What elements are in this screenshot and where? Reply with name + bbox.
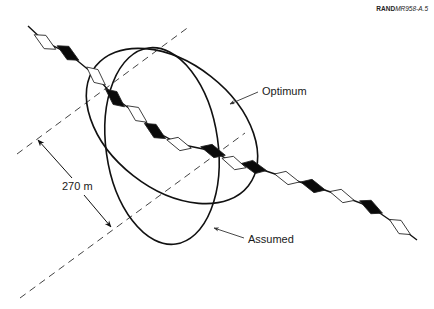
optimum-label: Optimum (262, 86, 307, 97)
assumed-label: Assumed (248, 234, 294, 245)
track-markers (31, 30, 414, 240)
track-line (28, 26, 417, 240)
distance-label: 270 m (62, 181, 93, 192)
diagram-canvas (0, 0, 434, 309)
open-diamond-marker (386, 215, 414, 240)
figure-id-prefix: RAND (376, 5, 395, 12)
assumed-leader-arrow (214, 228, 244, 238)
filled-diamond-marker (357, 196, 386, 219)
optimum-ellipse (57, 17, 287, 236)
figure-id: RANDMR958-A.5 (376, 5, 428, 12)
open-diamond-marker (328, 186, 357, 206)
open-diamond-marker (273, 168, 301, 187)
open-diamond-marker (165, 134, 193, 154)
filled-diamond-marker (299, 176, 327, 195)
distance-arrow-upper (38, 140, 72, 178)
figure-id-suffix: MR958-A.5 (395, 5, 428, 12)
distance-arrow-lower (84, 195, 111, 227)
